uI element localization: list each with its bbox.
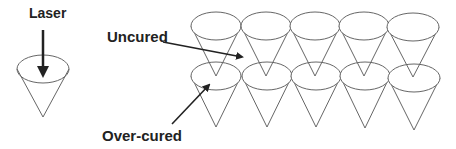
laser-arrow-icon [37,30,49,78]
cone [388,64,440,130]
cone [242,62,292,127]
uncured-arrow-icon [163,42,242,57]
cone [340,62,390,128]
laser-label: Laser [29,5,66,21]
laser-curing-diagram [0,0,456,149]
cone [191,62,241,127]
uncured-label: Uncured [107,28,168,45]
overcured-label: Over-cured [102,127,182,144]
cone [291,62,341,127]
overcured-arrow-icon [172,85,209,124]
cone-row-bottom [191,62,440,130]
